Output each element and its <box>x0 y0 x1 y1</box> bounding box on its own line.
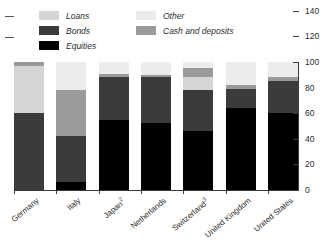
x-tick-4 <box>183 191 184 194</box>
y-tick-label-140: 140 <box>305 6 319 16</box>
legend-equities-label: Equities <box>66 41 96 51</box>
legend-other-swatch-icon <box>136 11 156 20</box>
x-label-switzerland: Switzerland3 <box>170 196 211 233</box>
y-tick-label-100: 100 <box>305 57 319 67</box>
legend-cash-and-deposits[interactable]: Cash and deposits <box>136 24 233 37</box>
legend-other[interactable]: Other <box>136 9 233 22</box>
y-tick-120 <box>293 36 299 37</box>
x-tick-1 <box>56 191 57 194</box>
x-tick-2 <box>99 191 100 194</box>
left-tick-140 <box>5 16 14 17</box>
x-label-italy: Italy <box>66 196 83 212</box>
segment-bonds <box>99 77 129 119</box>
legend-bonds[interactable]: Bonds <box>39 24 96 37</box>
stacked-bar-chart: LoansBondsEquities OtherCash and deposit… <box>0 0 327 247</box>
bar-united-states[interactable] <box>268 62 298 190</box>
bar-japan[interactable] <box>99 62 129 190</box>
segment-bonds <box>56 136 86 182</box>
segment-bonds <box>14 113 44 190</box>
y-tick-label-80: 80 <box>305 83 314 93</box>
x-label-text: Germany <box>10 196 41 224</box>
x-tick-0 <box>14 191 15 194</box>
segment-equities <box>183 131 213 190</box>
x-label-japan: Japan2 <box>101 196 127 220</box>
y-tick-80 <box>293 88 299 89</box>
bar-germany[interactable] <box>14 62 44 190</box>
segment-bonds <box>141 77 171 123</box>
legend-loans-label: Loans <box>66 11 89 21</box>
segment-equities <box>56 182 86 190</box>
legend-bonds-swatch-icon <box>39 26 59 35</box>
legend-equities[interactable]: Equities <box>39 39 96 52</box>
plot-area <box>14 62 298 190</box>
x-label-text: Italy <box>66 196 83 212</box>
y-tick-label-0: 0 <box>305 185 310 195</box>
legend-cash-and-deposits-swatch-icon <box>136 26 156 35</box>
x-label-text: Netherlands <box>129 196 168 231</box>
y-tick-140 <box>293 11 299 12</box>
segment-equities <box>268 113 298 190</box>
segment-other <box>226 62 256 85</box>
x-label-united-kingdom: United Kingdom <box>203 196 252 239</box>
x-tick-5 <box>226 191 227 194</box>
legend-loans-swatch-icon <box>39 11 59 20</box>
segment-bonds <box>268 81 298 113</box>
segment-equities <box>99 120 129 190</box>
segment-equities <box>141 123 171 190</box>
y-tick-label-40: 40 <box>305 134 314 144</box>
x-label-text: United States <box>252 196 295 234</box>
segment-cash-and-deposits <box>183 68 213 77</box>
segment-loans <box>183 77 213 90</box>
y-tick-label-120: 120 <box>305 31 319 41</box>
bar-united-kingdom[interactable] <box>226 62 256 190</box>
x-label-united-states: United States <box>252 196 295 234</box>
y-tick-100 <box>293 62 299 63</box>
bar-switzerland[interactable] <box>183 62 213 190</box>
segment-loans <box>14 66 44 113</box>
y-tick-40 <box>293 139 299 140</box>
bar-netherlands[interactable] <box>141 62 171 190</box>
legend-cash-and-deposits-label: Cash and deposits <box>163 26 233 36</box>
y-tick-label-60: 60 <box>305 108 314 118</box>
legend-loans[interactable]: Loans <box>39 9 96 22</box>
segment-other <box>56 62 86 90</box>
segment-cash-and-deposits <box>56 90 86 136</box>
x-label-netherlands: Netherlands <box>129 196 168 231</box>
x-label-text: United Kingdom <box>203 196 252 239</box>
legend-column-1: LoansBondsEquities <box>39 9 96 54</box>
segment-other <box>268 62 298 77</box>
segment-equities <box>226 108 256 190</box>
y-tick-label-20: 20 <box>305 159 314 169</box>
y-tick-20 <box>293 164 299 165</box>
segment-bonds <box>226 89 256 108</box>
y-tick-60 <box>293 113 299 114</box>
segment-bonds <box>183 90 213 131</box>
legend-bonds-label: Bonds <box>66 26 90 36</box>
x-tick-6 <box>268 191 269 194</box>
legend-column-2: OtherCash and deposits <box>136 9 233 39</box>
left-tick-120 <box>5 37 14 38</box>
segment-other <box>99 62 129 74</box>
legend-equities-swatch-icon <box>39 41 59 50</box>
bar-group <box>14 62 298 190</box>
y-axis-line <box>298 62 299 191</box>
chart-legend: LoansBondsEquities OtherCash and deposit… <box>0 0 327 52</box>
x-label-germany: Germany <box>10 196 41 224</box>
legend-other-label: Other <box>163 11 184 21</box>
bar-italy[interactable] <box>56 62 86 190</box>
segment-other <box>141 62 171 75</box>
x-label-text: Switzerland <box>171 199 208 232</box>
x-tick-3 <box>141 191 142 194</box>
